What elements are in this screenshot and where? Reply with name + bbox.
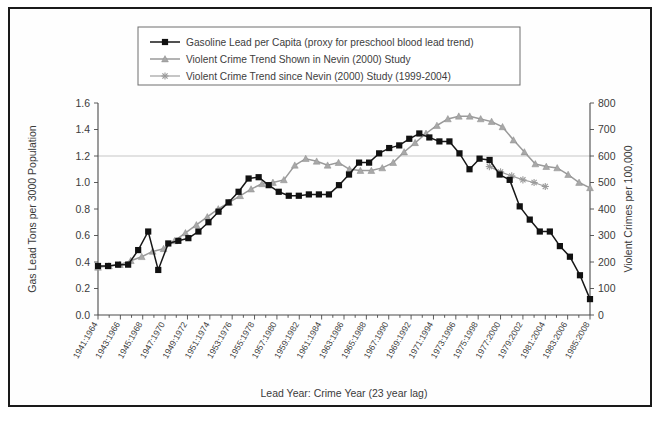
y-axis-right-tick-label: 700	[598, 123, 616, 135]
legend-label: Violent Crime Trend since Nevin (2000) S…	[186, 71, 451, 82]
data-point-marker	[335, 159, 342, 165]
data-point-marker	[386, 145, 392, 151]
data-point-marker	[379, 165, 386, 171]
data-point-marker	[497, 171, 503, 177]
data-point-marker	[587, 184, 594, 190]
data-point-marker	[205, 219, 211, 225]
data-point-marker	[507, 177, 513, 183]
data-point-marker	[446, 138, 452, 144]
data-point-marker	[587, 296, 593, 302]
data-point-marker	[162, 39, 168, 45]
y-axis-left-tick-label: 0.6	[75, 229, 90, 241]
data-point-marker	[366, 160, 372, 166]
data-point-marker	[499, 123, 506, 129]
y-axis-left-tick-label: 1.6	[75, 97, 90, 109]
data-point-marker	[105, 263, 111, 269]
y-axis-right-title: Violent Crimes per 100,000	[622, 145, 634, 272]
y-axis-right-tick-label: 400	[598, 203, 616, 215]
data-point-marker	[145, 228, 151, 234]
y-axis-right-tick-label: 500	[598, 176, 616, 188]
data-point-marker	[396, 142, 402, 148]
data-point-marker	[276, 189, 282, 195]
data-point-marker	[537, 228, 543, 234]
data-point-marker	[125, 262, 131, 268]
y-axis-left-tick-label: 0.8	[75, 203, 90, 215]
data-point-marker	[286, 193, 292, 199]
y-axis-right-tick-label: 300	[598, 229, 616, 241]
lead-crime-line-chart: 0.00.20.40.60.81.01.21.41.6 010020030040…	[10, 9, 654, 409]
legend-item-2[interactable]: Violent Crime Trend Shown in Nevin (2000…	[150, 54, 412, 65]
y-axis-left-tick-label: 1.2	[75, 150, 90, 162]
data-point-marker	[95, 263, 101, 269]
legend-label: Gasoline Lead per Capita (proxy for pres…	[186, 37, 474, 48]
data-point-marker	[246, 175, 252, 181]
data-point-marker	[336, 182, 342, 188]
chart-legend: Gasoline Lead per Capita (proxy for pres…	[138, 27, 520, 85]
data-point-marker	[376, 150, 382, 156]
data-point-marker	[291, 162, 298, 168]
data-point-marker	[306, 191, 312, 197]
data-point-marker	[517, 203, 523, 209]
data-point-marker	[466, 166, 472, 172]
series-2	[95, 113, 594, 270]
y-axis-left-tick-label: 1.4	[75, 123, 90, 135]
data-point-marker	[434, 122, 441, 128]
series-layer	[95, 113, 594, 302]
y-axis-right-tick-label: 800	[598, 97, 616, 109]
data-point-marker	[195, 228, 201, 234]
y-axis-left-title: Gas Lead Tons per 3000 Population	[26, 125, 38, 293]
data-point-marker	[486, 157, 492, 163]
plot-frame	[98, 103, 590, 315]
data-point-marker	[527, 217, 533, 223]
data-point-marker	[406, 136, 412, 142]
data-point-marker	[456, 150, 462, 156]
chart-area: 0.00.20.40.60.81.01.21.41.6 010020030040…	[10, 9, 654, 409]
data-point-marker	[115, 262, 121, 268]
y-axis-right: 0100200300400500600700800	[590, 97, 616, 321]
data-point-marker	[426, 134, 432, 140]
data-point-marker	[519, 176, 526, 183]
figure-border: 0.00.20.40.60.81.01.21.41.6 010020030040…	[8, 7, 652, 407]
data-point-marker	[296, 193, 302, 199]
data-point-marker	[316, 191, 322, 197]
data-point-marker	[577, 272, 583, 278]
x-axis-title: Lead Year: Crime Year (23 year lag)	[261, 387, 428, 399]
data-point-marker	[476, 156, 482, 162]
data-point-marker	[530, 179, 537, 186]
y-axis-left: 0.00.20.40.60.81.01.21.41.6	[75, 97, 98, 321]
data-point-marker	[547, 228, 553, 234]
y-axis-left-tick-label: 1.0	[75, 176, 90, 188]
data-point-marker	[557, 243, 563, 249]
legend-label: Violent Crime Trend Shown in Nevin (2000…	[186, 54, 412, 65]
data-point-marker	[266, 182, 272, 188]
data-point-marker	[256, 174, 262, 180]
data-point-marker	[326, 191, 332, 197]
data-point-marker	[436, 138, 442, 144]
data-point-marker	[542, 183, 549, 190]
y-axis-right-tick-label: 0	[598, 309, 604, 321]
data-point-marker	[215, 209, 221, 215]
data-point-marker	[175, 238, 181, 244]
data-point-marker	[235, 189, 241, 195]
y-axis-left-tick-label: 0.0	[75, 309, 90, 321]
data-point-marker	[346, 171, 352, 177]
y-axis-left-tick-label: 0.2	[75, 282, 90, 294]
data-point-marker	[248, 186, 255, 192]
data-point-marker	[185, 235, 191, 241]
data-point-marker	[135, 247, 141, 253]
data-point-marker	[161, 72, 168, 79]
x-axis: 1941:19641943:19661945:19681947:19701949…	[71, 315, 592, 360]
data-point-marker	[356, 160, 362, 166]
legend-item-1[interactable]: Gasoline Lead per Capita (proxy for pres…	[150, 37, 474, 48]
y-axis-left-tick-label: 0.4	[75, 256, 90, 268]
y-axis-right-tick-label: 600	[598, 150, 616, 162]
data-point-marker	[165, 240, 171, 246]
data-point-marker	[567, 254, 573, 260]
data-point-marker	[155, 267, 161, 273]
y-axis-right-tick-label: 100	[598, 282, 616, 294]
data-point-marker	[416, 130, 422, 136]
legend-item-3[interactable]: Violent Crime Trend since Nevin (2000) S…	[150, 71, 451, 82]
data-point-marker	[565, 171, 572, 177]
y-axis-right-tick-label: 200	[598, 256, 616, 268]
data-point-marker	[225, 199, 231, 205]
